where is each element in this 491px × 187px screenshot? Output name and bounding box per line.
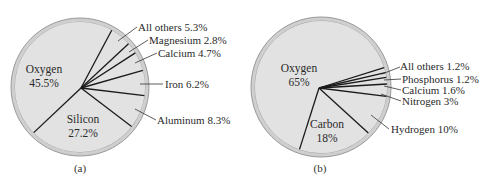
slice-label-silicon-a-name: Silicon <box>67 113 100 125</box>
slice-label-calcium-a: Calcium 4.7% <box>158 47 221 59</box>
slice-label-oxygen-b-value: 65% <box>288 76 310 88</box>
slice-label-iron-a: Iron 6.2% <box>165 78 209 90</box>
pie-charts-figure: Oxygen 45.5% Silicon 27.2% All others 5.… <box>0 0 491 187</box>
slice-label-silicon-a-value: 27.2% <box>68 127 98 139</box>
slice-label-nitrogen-b: Nitrogen 3% <box>402 95 459 107</box>
slice-label-carbon-b-name: Carbon <box>310 118 344 130</box>
slice-label-oxygen-b-name: Oxygen <box>281 62 318 75</box>
caption-b: (b) <box>314 162 327 175</box>
slice-label-oxygen-a-value: 45.5% <box>29 77 59 89</box>
slice-label-hydrogen-b: Hydrogen 10% <box>391 123 458 135</box>
slice-label-all-others-a: All others 5.3% <box>138 21 207 33</box>
slice-label-oxygen-a-name: Oxygen <box>26 63 63 76</box>
slice-label-magnesium-a: Magnesium 2.8% <box>149 34 227 46</box>
slice-label-carbon-b-value: 18% <box>316 132 338 144</box>
slice-label-aluminum-a: Aluminum 8.3% <box>157 114 230 126</box>
slice-label-all-others-b: All others 1.2% <box>400 60 469 72</box>
caption-a: (a) <box>74 162 87 175</box>
